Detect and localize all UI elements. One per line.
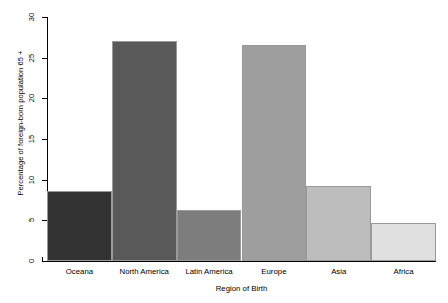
bar-chart: Percentage of foreign-born population 65… [0, 0, 448, 303]
bar-oceana [47, 191, 112, 261]
y-axis-tick-label: 5 [27, 212, 37, 228]
x-axis-tick-label: Oceana [47, 266, 112, 278]
y-axis-tick-label: 15 [27, 131, 37, 147]
y-axis-tick-label: 10 [27, 172, 37, 188]
bar-africa [371, 223, 436, 261]
y-axis-tick-label: 0 [27, 253, 37, 269]
x-axis-tick-label: North America [112, 266, 177, 278]
bar-asia [306, 186, 371, 261]
x-axis-tick-label: Latin America [177, 266, 242, 278]
x-axis-tick-label: Africa [371, 266, 436, 278]
x-axis-tick-label: Europe [242, 266, 307, 278]
plot-area [47, 17, 436, 261]
x-axis-origin-tick [42, 257, 43, 262]
y-axis-tick-label: 25 [27, 50, 37, 66]
y-axis-title: Percentage of foreign-born population 65… [14, 0, 28, 253]
y-axis-tick-label: 30 [27, 9, 37, 25]
y-axis-tick-label: 20 [27, 90, 37, 106]
bar-latin-america [177, 210, 242, 261]
x-axis-line [47, 261, 436, 262]
bar-europe [242, 45, 307, 261]
bar-north-america [112, 41, 177, 261]
x-axis-title: Region of Birth [47, 283, 436, 295]
x-axis-tick-label: Asia [306, 266, 371, 278]
